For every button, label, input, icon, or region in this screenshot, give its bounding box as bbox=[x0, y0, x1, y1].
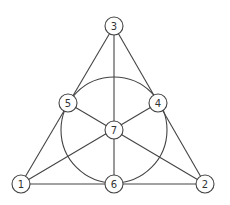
node-label: 2 bbox=[202, 179, 208, 190]
node-label: 1 bbox=[18, 179, 24, 190]
node-label: 3 bbox=[111, 21, 117, 32]
node-label: 7 bbox=[111, 125, 117, 136]
node-label: 6 bbox=[111, 179, 117, 190]
node-3: 3 bbox=[105, 17, 123, 35]
node-1: 1 bbox=[12, 175, 30, 193]
fano-plane-diagram: 1234567 bbox=[0, 0, 230, 205]
lines-group bbox=[21, 26, 205, 184]
node-5: 5 bbox=[59, 94, 77, 112]
node-6: 6 bbox=[105, 175, 123, 193]
node-label: 4 bbox=[155, 98, 161, 109]
node-7: 7 bbox=[105, 121, 123, 139]
node-2: 2 bbox=[196, 175, 214, 193]
node-label: 5 bbox=[65, 98, 71, 109]
node-4: 4 bbox=[149, 94, 167, 112]
nodes-group: 1234567 bbox=[12, 17, 214, 193]
